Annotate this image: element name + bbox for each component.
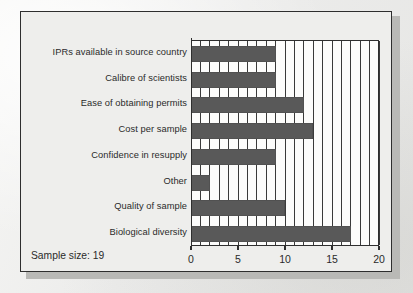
gridline (360, 41, 361, 245)
figure-container: IPRs available in source countryCalibre … (0, 0, 413, 293)
category-label: Biological diversity (110, 227, 187, 237)
axis-tick-label: 10 (270, 253, 300, 265)
bar (191, 226, 351, 242)
gridline (313, 41, 314, 245)
category-label: Other (163, 176, 187, 186)
category-label: Confidence in resupply (91, 150, 187, 160)
bar (191, 149, 276, 165)
axis-tick-label: 15 (317, 253, 347, 265)
gridline (341, 41, 342, 245)
category-label: IPRs available in source country (53, 47, 187, 57)
axis-tick (284, 246, 285, 250)
axis-tick (190, 246, 191, 250)
gridline (303, 41, 304, 245)
bar (191, 175, 210, 191)
category-label: Calibre of scientists (105, 73, 187, 83)
axis-tick-label: 5 (223, 253, 253, 265)
gridline (379, 41, 380, 245)
category-axis-labels: IPRs available in source countryCalibre … (29, 40, 187, 246)
category-label: Cost per sample (119, 124, 187, 134)
plot-area (191, 40, 379, 246)
bar (191, 123, 313, 139)
gridline (322, 41, 323, 245)
bar (191, 200, 285, 216)
category-label: Quality of sample (114, 201, 187, 211)
gridline (369, 41, 370, 245)
sample-size-note: Sample size: 19 (31, 250, 104, 261)
category-label: Ease of obtaining permits (81, 98, 187, 108)
chart-frame: IPRs available in source countryCalibre … (20, 11, 392, 272)
gridline (294, 41, 295, 245)
bar (191, 97, 304, 113)
gridline (332, 41, 333, 245)
axis-tick (378, 246, 379, 250)
axis-tick-label: 20 (364, 253, 394, 265)
bar (191, 46, 276, 62)
axis-tick (331, 246, 332, 250)
bar (191, 72, 276, 88)
axis-tick (237, 246, 238, 250)
axis-tick-label: 0 (176, 253, 206, 265)
value-axis: 05101520 (191, 246, 379, 270)
gridline (350, 41, 351, 245)
value-axis-line (191, 38, 192, 248)
